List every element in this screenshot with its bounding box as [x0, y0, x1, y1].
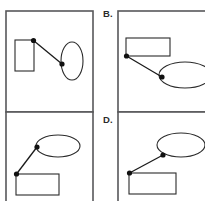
panel-b	[118, 11, 205, 112]
panel-d-node-rectangle-top-left	[127, 170, 132, 175]
panel-a-node-rectangle-top-right	[31, 38, 36, 43]
panel-d-node-ellipse-bottom-left	[160, 152, 165, 157]
panel-c-node-ellipse-left	[34, 144, 39, 149]
panel-b-node-ellipse-left	[159, 74, 164, 79]
panel-a	[6, 11, 93, 112]
panel-c-node-rectangle-top-left	[14, 171, 19, 176]
panel-b-node-rectangle-bottom-left	[124, 53, 129, 58]
multi-panel-shape-diagram: B.D.	[0, 0, 205, 201]
panel-b-frame	[118, 11, 205, 112]
panel-a-frame	[6, 11, 93, 112]
panel-b-label: B.	[103, 8, 113, 19]
panel-a-node-ellipse-left	[59, 61, 64, 66]
panel-d	[118, 112, 205, 201]
panel-c	[6, 112, 93, 201]
panel-d-label: D.	[103, 114, 113, 125]
figure-canvas: B.D.	[0, 0, 205, 201]
